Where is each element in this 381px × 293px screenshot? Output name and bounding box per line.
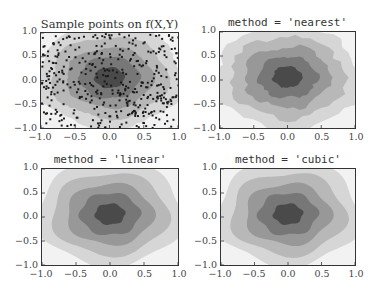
chart-title: method = 'nearest' (219, 16, 356, 29)
plot-area (40, 32, 179, 129)
y-tick-label: 0.5 (186, 49, 216, 60)
y-tick-label: 0.0 (8, 210, 38, 221)
x-tick-label: 0.5 (307, 268, 337, 279)
y-tick-label: 0.5 (7, 49, 37, 60)
x-tick-label: −0.5 (239, 268, 269, 279)
figure: Sample points on f(X,Y)1.00.50.0−0.5−1.0… (0, 0, 381, 293)
chart-title: method = 'linear' (41, 153, 179, 166)
x-tick-label: 1.0 (341, 268, 371, 279)
x-tick-label: −0.5 (61, 268, 91, 279)
x-tick-label: 0.5 (130, 268, 160, 279)
plot-area (41, 168, 179, 266)
x-tick-label: −1.0 (25, 131, 55, 142)
chart-title: method = 'cubic' (220, 153, 356, 166)
y-tick-label: 0.5 (187, 186, 217, 197)
y-tick-label: 1.0 (7, 25, 37, 36)
contour-plot (221, 169, 355, 265)
contour-plot (220, 32, 355, 128)
y-tick-label: −0.5 (187, 235, 217, 246)
y-tick-label: 0.5 (8, 186, 38, 197)
y-tick-label: −0.5 (7, 98, 37, 109)
y-tick-label: 0.0 (187, 210, 217, 221)
x-tick-label: 0.0 (273, 268, 303, 279)
y-tick-label: 0.0 (7, 74, 37, 85)
y-tick-label: −0.5 (8, 235, 38, 246)
contour-plot (41, 33, 178, 128)
x-tick-label: −1.0 (205, 268, 235, 279)
x-tick-label: 0.0 (95, 268, 125, 279)
x-tick-label: 0.0 (95, 131, 125, 142)
chart-title: Sample points on f(X,Y) (40, 17, 179, 31)
y-tick-label: −0.5 (186, 98, 216, 109)
x-tick-label: −0.5 (238, 131, 268, 142)
x-tick-label: −1.0 (204, 131, 234, 142)
x-tick-label: −1.0 (26, 268, 56, 279)
contour-plot (42, 169, 178, 265)
y-tick-label: 1.0 (187, 161, 217, 172)
y-tick-label: 0.0 (186, 73, 216, 84)
y-tick-label: 1.0 (8, 161, 38, 172)
x-tick-label: 0.5 (129, 131, 159, 142)
y-tick-label: 1.0 (186, 24, 216, 35)
x-tick-label: 1.0 (341, 131, 371, 142)
x-tick-label: 0.5 (307, 131, 337, 142)
x-tick-label: −0.5 (60, 131, 90, 142)
plot-area (220, 168, 356, 266)
x-tick-label: 0.0 (273, 131, 303, 142)
plot-area (219, 31, 356, 129)
